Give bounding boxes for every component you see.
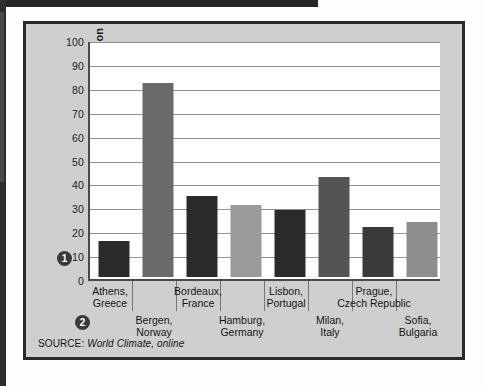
- x-label-country: Bulgaria: [399, 326, 438, 338]
- y-tick-label-60: 60: [54, 132, 84, 144]
- chart-panel: Inches of Precipitation 1009080706050403…: [23, 21, 465, 360]
- plot-area: [88, 42, 440, 281]
- bar-prague: [363, 227, 394, 277]
- x-label-city: Bordeaux,: [174, 285, 222, 297]
- callout-marker-1: 1: [57, 251, 72, 266]
- x-label-city: Sofia,: [399, 314, 438, 326]
- bar-lisbon: [275, 210, 306, 277]
- source-prefix: SOURCE:: [38, 338, 84, 349]
- x-category-label-lisbon: Lisbon,Portugal: [266, 285, 305, 309]
- scan-edge-left-secondary: [0, 12, 4, 182]
- bar-bergen: [143, 83, 174, 277]
- x-label-country: France: [174, 297, 222, 309]
- x-category-label-hamburg: Hamburg,Germany: [219, 314, 265, 338]
- x-category-label-prague: Prague,Czech Republic: [337, 285, 411, 309]
- x-label-city: Lisbon,: [266, 285, 305, 297]
- plot-wrapper: [88, 42, 440, 281]
- y-tick-label-40: 40: [54, 179, 84, 191]
- y-tick-label-50: 50: [54, 156, 84, 168]
- x-label-country: Greece: [92, 297, 128, 309]
- y-axis-tick-labels: 1009080706050403020100: [52, 42, 84, 281]
- x-label-country: Czech Republic: [337, 297, 411, 309]
- x-label-city: Prague,: [337, 285, 411, 297]
- x-category-label-sofia: Sofia,Bulgaria: [399, 314, 438, 338]
- x-category-label-bordeaux: Bordeaux,France: [174, 285, 222, 309]
- x-label-city: Milan,: [316, 314, 344, 326]
- x-label-city: Bergen,: [136, 314, 173, 326]
- x-category-label-athens: Athens,Greece: [92, 285, 128, 309]
- x-label-country: Portugal: [266, 297, 305, 309]
- x-label-country: Germany: [219, 326, 265, 338]
- y-tick-label-100: 100: [54, 36, 84, 48]
- bar-slot: [268, 42, 312, 277]
- y-tick-label-30: 30: [54, 203, 84, 215]
- callout-marker-2: 2: [75, 315, 90, 330]
- bar-sofia: [407, 222, 438, 277]
- scanned-page: Inches of Precipitation 1009080706050403…: [0, 0, 483, 386]
- bar-slot: [136, 42, 180, 277]
- y-tick-label-20: 20: [54, 227, 84, 239]
- source-reference: World Climate, online: [87, 338, 184, 349]
- x-label-country: Italy: [316, 326, 344, 338]
- y-tick-label-70: 70: [54, 108, 84, 120]
- x-category-label-milan: Milan,Italy: [316, 314, 344, 338]
- bar-slot: [224, 42, 268, 277]
- y-tick-label-80: 80: [54, 84, 84, 96]
- bar-athens: [99, 241, 130, 277]
- y-tick-label-0: 0: [54, 275, 84, 287]
- x-label-city: Hamburg,: [219, 314, 265, 326]
- bar-milan: [319, 177, 350, 277]
- bar-slot: [92, 42, 136, 277]
- bar-hamburg: [231, 205, 262, 277]
- bar-slot: [312, 42, 356, 277]
- source-note: SOURCE: World Climate, online: [38, 338, 184, 349]
- x-label-city: Athens,: [92, 285, 128, 297]
- bar-slot: [356, 42, 400, 277]
- bar-slot: [400, 42, 444, 277]
- y-tick-label-90: 90: [54, 60, 84, 72]
- x-label-country: Norway: [136, 326, 173, 338]
- bar-series: [92, 42, 440, 277]
- bar-bordeaux: [187, 196, 218, 277]
- scan-edge-top: [0, 0, 318, 7]
- x-axis-category-labels: Athens,GreeceBergen,NorwayBordeaux,Franc…: [88, 283, 440, 345]
- x-category-label-bergen: Bergen,Norway: [136, 314, 173, 338]
- bar-slot: [180, 42, 224, 277]
